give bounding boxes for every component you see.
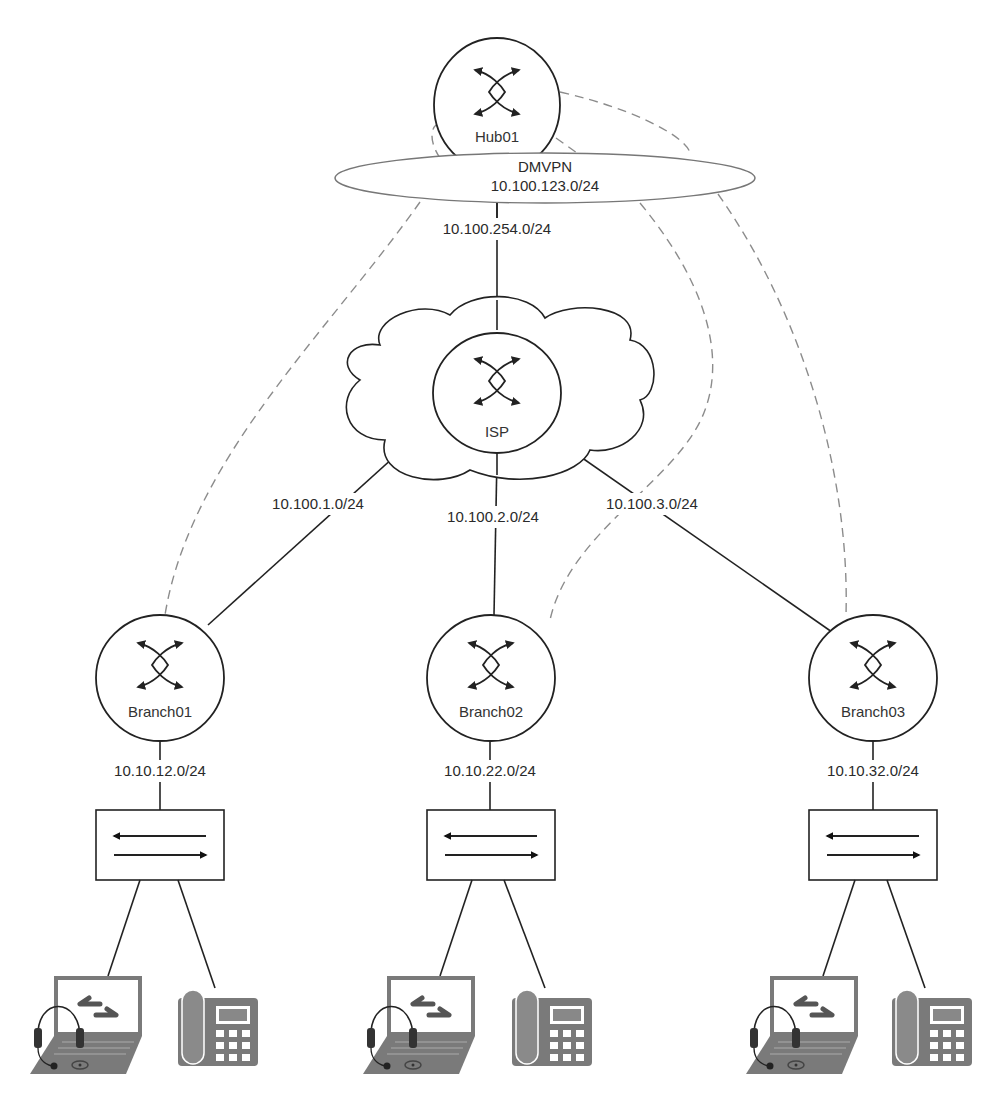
phone-branch03[interactable] [892,990,972,1066]
dmvpn-name: DMVPN [518,158,572,175]
link-isp-branch03 [545,432,832,632]
router-branch02[interactable]: Branch02 [427,615,555,741]
dmvpn-subnet: 10.100.123.0/24 [491,177,599,194]
switch-branch01[interactable] [96,810,224,880]
router-isp[interactable]: ISP [433,333,561,453]
link-label-branch03-lan: 10.10.32.0/24 [827,762,919,779]
link-label-branch02-lan: 10.10.22.0/24 [444,762,536,779]
link-isp-branch02 [494,456,497,615]
phone-branch01[interactable] [178,990,258,1066]
router-branch01[interactable]: Branch01 [96,615,224,741]
router-hub01[interactable]: Hub01 [434,38,560,172]
switch-branch02[interactable] [427,810,555,880]
router-label-branch03: Branch03 [841,703,905,720]
router-branch03[interactable]: Branch03 [809,615,937,741]
phone-branch02[interactable] [512,990,592,1066]
switch-branch03[interactable] [809,810,937,880]
laptop-branch02[interactable] [363,976,475,1074]
access-links [108,880,925,988]
link-label-hub-isp: 10.100.254.0/24 [443,220,551,237]
link-label-branch01-lan: 10.10.12.0/24 [114,762,206,779]
laptop-branch03[interactable] [746,976,858,1074]
dmvpn-cloud[interactable]: DMVPN 10.100.123.0/24 [335,153,755,203]
link-label-isp-branch01: 10.100.1.0/24 [272,495,364,512]
router-label-branch01: Branch01 [128,703,192,720]
network-diagram: Hub01 DMVPN 10.100.123.0/24 10.100.254.0… [0,0,997,1118]
link-label-isp-branch02: 10.100.2.0/24 [447,508,539,525]
router-label-hub01: Hub01 [475,128,519,145]
laptop-branch01[interactable] [30,976,142,1074]
router-label-branch02: Branch02 [459,703,523,720]
router-label-isp: ISP [485,423,509,440]
link-label-isp-branch03: 10.100.3.0/24 [606,495,698,512]
